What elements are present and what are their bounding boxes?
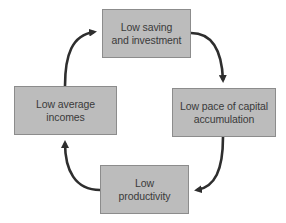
- node-label-line1: Low average: [36, 98, 95, 111]
- node-label-line2: and investment: [112, 34, 182, 47]
- node-label-line2: incomes: [36, 111, 95, 124]
- arrow-productivity-to-incomes: [65, 143, 100, 190]
- node-low-productivity: Low productivity: [100, 165, 189, 214]
- node-label-line1: Low pace of capital: [180, 100, 268, 113]
- node-low-pace-of-capital-accumulation: Low pace of capital accumulation: [172, 88, 276, 137]
- arrow-saving-to-capital: [191, 33, 223, 80]
- node-low-average-incomes: Low average incomes: [14, 86, 117, 135]
- arrow-incomes-to-saving: [65, 32, 94, 86]
- vicious-cycle-diagram: Low saving and investment Low pace of ca…: [0, 0, 286, 223]
- node-low-saving-and-investment: Low saving and investment: [102, 9, 191, 58]
- node-label-line2: productivity: [119, 190, 171, 203]
- node-label-line1: Low: [119, 177, 171, 190]
- node-label-line1: Low saving: [112, 21, 182, 34]
- arrow-capital-to-productivity: [197, 137, 223, 190]
- node-label-line2: accumulation: [180, 113, 268, 126]
